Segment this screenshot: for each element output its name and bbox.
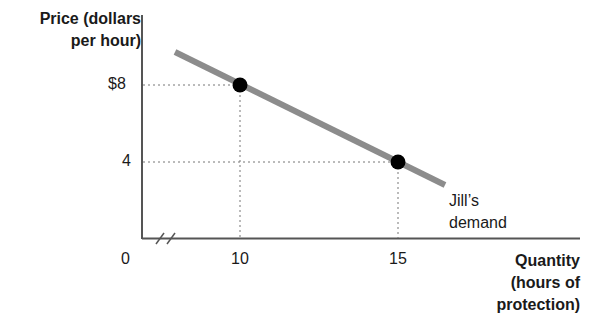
y-axis-label-line: Price (dollars: [40, 8, 141, 30]
demand-curve-label: Jill’s demand: [449, 190, 507, 234]
x-axis-label-line: (hours of: [496, 272, 580, 294]
x-axis-label-line: Quantity: [496, 250, 580, 272]
x-axis-label: Quantity (hours of protection): [496, 250, 580, 316]
data-point: [233, 78, 248, 93]
x-axis-label-line: protection): [496, 294, 580, 316]
x-tick-15: 15: [389, 250, 407, 268]
y-tick-8: $8: [108, 75, 126, 93]
curve-label-line: demand: [449, 212, 507, 234]
y-tick-4: 4: [122, 152, 131, 170]
x-tick-10: 10: [231, 250, 249, 268]
curve-label-line: Jill’s: [449, 190, 507, 212]
data-point: [391, 155, 406, 170]
y-axis-label: Price (dollars per hour): [40, 8, 141, 52]
x-tick-0: 0: [121, 250, 130, 268]
y-axis-label-line: per hour): [40, 30, 141, 52]
